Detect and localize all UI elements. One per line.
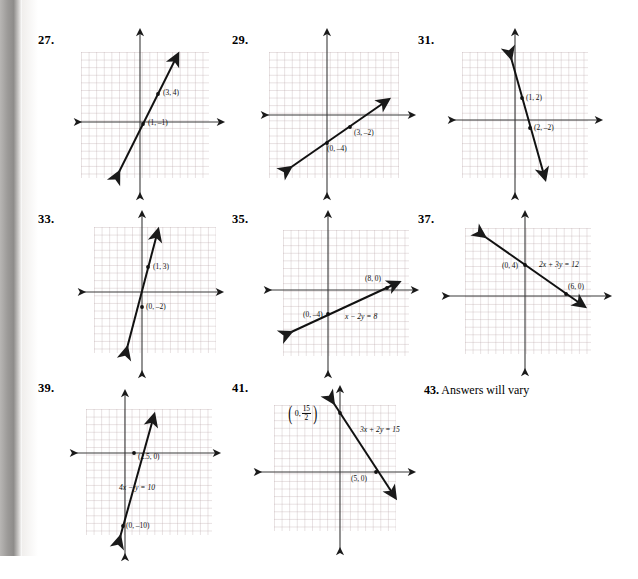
- point-label: (0, –4): [303, 310, 323, 319]
- graph-27: (3, 4) (1, –1): [78, 30, 224, 198]
- problem-number-41: 41.: [232, 381, 248, 396]
- graph-31: (1, 2) (2, –2): [452, 30, 602, 198]
- point-label: (1, –1): [148, 118, 168, 127]
- point-label: (2, –2): [534, 123, 554, 132]
- fraction-x-value: 0,: [295, 409, 301, 418]
- graph-35: (8, 0) (0, –4) x − 2y = 8: [265, 212, 420, 377]
- equation-label: x − 2y = 8: [345, 312, 377, 321]
- problem-number-27: 27.: [38, 33, 54, 48]
- page-gutter-shadow: [0, 0, 22, 556]
- problem-number-37: 37.: [418, 212, 434, 227]
- graph-plot: [265, 212, 420, 377]
- point-label: (0, 4): [502, 261, 518, 270]
- problem-number-33: 33.: [38, 212, 54, 227]
- point-label: (5, 0): [351, 474, 367, 483]
- point-label: (1, 3): [153, 262, 169, 271]
- point-label: (0, –2): [146, 302, 166, 311]
- equation-label: 2x + 3y = 12: [539, 260, 579, 269]
- graph-37: (0, 4) (6, 0) 2x + 3y = 12: [443, 212, 623, 377]
- fraction: 15 2: [302, 405, 311, 421]
- graph-39: (2.5, 0) (0, –10) 4x − y = 10: [72, 381, 227, 561]
- fraction-numerator: 15: [302, 405, 311, 413]
- point-label: (3, –2): [354, 128, 374, 137]
- graph-plot: [265, 30, 415, 198]
- point-label: (8, 0): [365, 274, 381, 283]
- problem-number-39: 39.: [38, 381, 54, 396]
- point-label: (6, 0): [568, 282, 584, 291]
- graph-41: ( 0, 15 2 ) (5, 0) 3x + 2y = 15: [248, 381, 423, 561]
- graph-33: (1, 3) (0, –2): [74, 212, 224, 377]
- point-label-fraction: ( 0, 15 2 ): [287, 405, 319, 421]
- answer-text-43: Answers will vary: [441, 383, 529, 397]
- equation-label: 3x + 2y = 15: [360, 425, 400, 434]
- problem-number-29: 29.: [232, 33, 248, 48]
- point-label: (0, –4): [327, 144, 347, 153]
- page-gutter-fade: [22, 0, 38, 556]
- point-label: (2.5, 0): [138, 452, 160, 461]
- graph-plot: [452, 30, 602, 198]
- graph-29: (3, –2) (0, –4): [265, 30, 415, 198]
- problem-number-43: 43.: [424, 383, 439, 397]
- problem-number-31: 31.: [418, 33, 434, 48]
- graph-plot: [74, 212, 224, 377]
- equation-label: 4x − y = 10: [119, 483, 155, 492]
- point-label: (1, 2): [526, 93, 542, 102]
- graph-plot: [72, 381, 227, 561]
- graph-plot: [248, 381, 423, 561]
- point-label: (3, 4): [163, 88, 179, 97]
- graph-plot: [78, 30, 224, 198]
- answer-item-43: 43. Answers will vary: [424, 383, 529, 398]
- point-label: (0, –10): [126, 521, 149, 530]
- graph-plot: [443, 212, 623, 377]
- problem-number-35: 35.: [232, 212, 248, 227]
- fraction-denominator: 2: [304, 414, 310, 422]
